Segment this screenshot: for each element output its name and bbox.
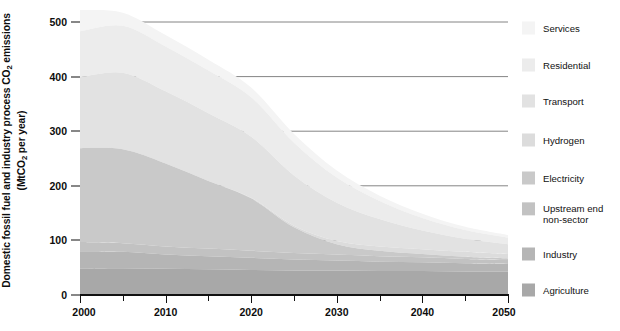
x-minor-tick-2015 bbox=[208, 296, 209, 301]
x-tick-mark-2050 bbox=[508, 296, 509, 303]
x-tick-mark-2000 bbox=[80, 296, 81, 303]
y-tick-mark-200 bbox=[71, 185, 80, 186]
legend-item-industry[interactable]: Industry bbox=[522, 248, 577, 261]
legend-label: Services bbox=[543, 22, 580, 34]
legend-label: Industry bbox=[543, 248, 577, 260]
y-tick-label-200: 200 bbox=[23, 180, 67, 192]
legend-item-services[interactable]: Services bbox=[522, 22, 580, 35]
legend-label: Agriculture bbox=[543, 284, 589, 296]
x-minor-tick-2005 bbox=[123, 296, 124, 301]
x-tick-mark-2010 bbox=[166, 296, 167, 303]
plot-area bbox=[80, 8, 508, 295]
legend-swatch-icon bbox=[522, 95, 535, 108]
legend-label: Electricity bbox=[543, 172, 584, 184]
x-tick-mark-2030 bbox=[337, 296, 338, 303]
legend-swatch-icon bbox=[522, 284, 535, 297]
area-series-group bbox=[80, 10, 508, 295]
legend-swatch-icon bbox=[522, 172, 535, 185]
legend-label: Upstream end non-sector bbox=[543, 202, 603, 225]
legend-item-transport[interactable]: Transport bbox=[522, 95, 584, 108]
legend-item-electricity[interactable]: Electricity bbox=[522, 172, 584, 185]
legend-swatch-icon bbox=[522, 59, 535, 72]
y-tick-label-0: 0 bbox=[23, 289, 67, 301]
legend-label: Residential bbox=[543, 59, 590, 71]
x-tick-label-2050: 2050 bbox=[492, 306, 515, 318]
y-tick-label-500: 500 bbox=[23, 16, 67, 28]
legend: ServicesResidentialTransportHydrogenElec… bbox=[522, 0, 620, 331]
x-tick-label-2020: 2020 bbox=[240, 306, 263, 318]
legend-item-agriculture[interactable]: Agriculture bbox=[522, 284, 589, 297]
x-tick-mark-2020 bbox=[251, 296, 252, 303]
y-axis-title-line1: Domestic fossil fuel and industry proces… bbox=[1, 13, 12, 288]
x-minor-tick-2025 bbox=[294, 296, 295, 301]
area-band-agriculture bbox=[80, 268, 508, 295]
y-axis: 5004003002001000 bbox=[22, 0, 80, 331]
x-tick-mark-2040 bbox=[422, 296, 423, 303]
legend-label: Transport bbox=[543, 95, 584, 107]
legend-item-hydrogen[interactable]: Hydrogen bbox=[522, 134, 585, 147]
y-tick-label-300: 300 bbox=[23, 125, 67, 137]
y-tick-mark-300 bbox=[71, 131, 80, 132]
legend-swatch-icon bbox=[522, 248, 535, 261]
y-tick-mark-400 bbox=[71, 76, 80, 77]
legend-label: Hydrogen bbox=[543, 134, 585, 146]
legend-swatch-icon bbox=[522, 202, 535, 215]
subscript-2: 2 bbox=[5, 65, 14, 69]
legend-item-upstream-end-non-sector[interactable]: Upstream end non-sector bbox=[522, 202, 603, 225]
legend-swatch-icon bbox=[522, 22, 535, 35]
x-tick-label-2010: 2010 bbox=[154, 306, 177, 318]
x-tick-label-2000: 2000 bbox=[72, 306, 95, 318]
y-tick-label-100: 100 bbox=[23, 234, 67, 246]
y-tick-label-400: 400 bbox=[23, 71, 67, 83]
y-tick-mark-100 bbox=[71, 240, 80, 241]
x-minor-tick-2035 bbox=[380, 296, 381, 301]
chart-figure: Domestic fossil fuel and industry proces… bbox=[0, 0, 620, 331]
y-tick-mark-500 bbox=[71, 22, 80, 23]
stacked-area-chart bbox=[80, 8, 508, 295]
y-tick-mark-0 bbox=[71, 295, 80, 296]
legend-item-residential[interactable]: Residential bbox=[522, 59, 590, 72]
legend-swatch-icon bbox=[522, 134, 535, 147]
x-minor-tick-2045 bbox=[465, 296, 466, 301]
x-tick-label-2030: 2030 bbox=[325, 306, 348, 318]
x-tick-label-2040: 2040 bbox=[411, 306, 434, 318]
